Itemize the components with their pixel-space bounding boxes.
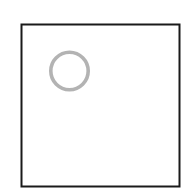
- circle-shape: [51, 52, 88, 89]
- square-outline: [22, 25, 180, 187]
- diagram-canvas: [0, 0, 185, 193]
